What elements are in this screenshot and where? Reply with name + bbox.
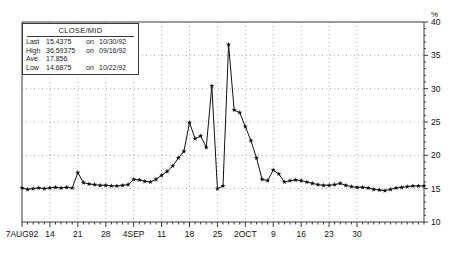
legend-date: 09/16/92	[99, 47, 135, 56]
data-point-marker	[288, 178, 293, 183]
volatility-chart: 40353025201510%7AUG921421284SEP1118252OC…	[0, 0, 454, 255]
y-tick-label: 15	[431, 184, 441, 194]
legend-value: 14.6875	[46, 64, 86, 73]
legend-value: 17.856	[46, 55, 86, 64]
data-point-marker	[371, 187, 376, 192]
legend-on: on	[86, 38, 99, 47]
data-point-marker	[332, 182, 337, 187]
data-point-marker	[260, 177, 265, 182]
data-point-marker	[98, 183, 103, 188]
data-point-marker	[137, 177, 142, 182]
x-tick-label: 23	[324, 229, 334, 239]
data-point-marker	[293, 177, 298, 182]
data-point-marker	[221, 183, 226, 188]
x-tick-label: 25	[213, 229, 223, 239]
data-point-marker	[338, 181, 343, 186]
legend-row: Ave17.856	[23, 55, 138, 64]
data-point-marker	[399, 185, 404, 190]
legend-on	[86, 55, 99, 64]
data-point-marker	[276, 171, 281, 176]
legend-on: on	[86, 47, 99, 56]
legend-key: Last	[26, 38, 46, 47]
y-axis-unit-label: %	[431, 10, 438, 19]
legend-value: 15.4375	[46, 38, 86, 47]
y-tick-label: 35	[431, 50, 441, 60]
data-point-marker	[81, 180, 86, 185]
x-tick-label: 2OCT	[234, 229, 257, 239]
data-point-marker	[92, 182, 97, 187]
legend-title: CLOSE/MID	[27, 25, 134, 37]
data-point-marker	[204, 145, 209, 150]
data-point-marker	[416, 183, 421, 188]
data-point-marker	[59, 185, 64, 190]
data-point-marker	[36, 185, 41, 190]
data-point-marker	[120, 183, 125, 188]
x-tick-label: 7AUG92	[6, 229, 39, 239]
data-point-marker	[154, 177, 159, 182]
legend-rows: Last15.4375on10/30/92High36.59375on09/16…	[23, 38, 138, 72]
data-point-marker	[198, 133, 203, 138]
data-point-marker	[321, 183, 326, 188]
data-point-marker	[31, 186, 36, 191]
data-point-marker	[343, 183, 348, 188]
data-point-marker	[377, 187, 382, 192]
x-tick-label: 16	[296, 229, 306, 239]
legend-key: Low	[26, 64, 46, 73]
data-point-marker	[232, 107, 237, 112]
data-point-marker	[53, 185, 58, 190]
data-point-marker	[70, 185, 75, 190]
legend-date	[99, 55, 135, 64]
data-point-marker	[243, 124, 248, 129]
x-tick-label: 9	[271, 229, 276, 239]
y-tick-label: 20	[431, 150, 441, 160]
data-point-marker	[265, 178, 270, 183]
legend-value: 36.59375	[46, 47, 86, 56]
x-tick-label: 28	[101, 229, 111, 239]
x-tick-label: 4SEP	[123, 229, 145, 239]
data-point-marker	[304, 179, 309, 184]
data-point-marker	[237, 110, 242, 115]
x-tick-label: 14	[45, 229, 55, 239]
legend-row: High36.59375on09/16/92	[23, 47, 138, 56]
legend-date: 10/22/92	[99, 64, 135, 73]
legend-row: Low14.6875on10/22/92	[23, 64, 138, 73]
data-point-marker	[366, 185, 371, 190]
legend-date: 10/30/92	[99, 38, 135, 47]
data-point-marker	[114, 183, 119, 188]
data-point-marker	[349, 184, 354, 189]
legend-on: on	[86, 64, 99, 73]
legend-panel: CLOSE/MID Last15.4375on10/30/92High36.59…	[22, 23, 139, 75]
y-tick-label: 30	[431, 84, 441, 94]
x-tick-label: 30	[352, 229, 362, 239]
data-point-marker	[388, 187, 393, 192]
data-point-marker	[405, 184, 410, 189]
x-tick-label: 21	[73, 229, 83, 239]
data-point-marker	[148, 179, 153, 184]
x-tick-label: 11	[157, 229, 166, 239]
data-point-marker	[109, 183, 114, 188]
legend-key: Ave	[26, 55, 46, 64]
y-tick-label: 25	[431, 117, 441, 127]
data-point-marker	[142, 179, 147, 184]
data-point-marker	[47, 185, 52, 190]
y-tick-label: 10	[431, 217, 441, 227]
data-point-marker	[310, 181, 315, 186]
data-point-marker	[87, 181, 92, 186]
data-point-marker	[42, 186, 47, 191]
data-point-marker	[315, 182, 320, 187]
x-tick-label: 18	[185, 229, 195, 239]
data-point-marker	[193, 136, 198, 141]
legend-row: Last15.4375on10/30/92	[23, 38, 138, 47]
data-point-marker	[410, 183, 415, 188]
legend-key: High	[26, 47, 46, 56]
data-point-marker	[394, 185, 399, 190]
data-point-marker	[25, 187, 30, 192]
